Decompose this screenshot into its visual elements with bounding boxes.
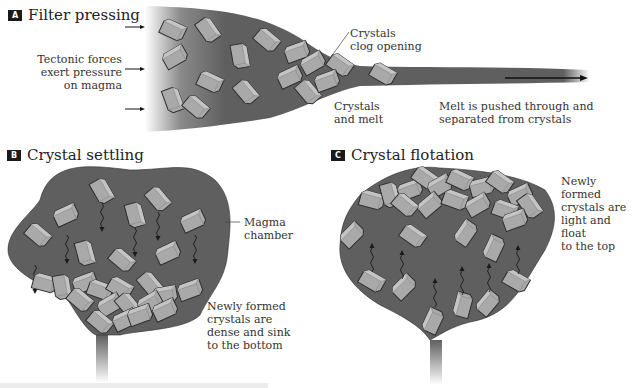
chamber-line-1: Magma — [244, 216, 293, 229]
sink-line-2: crystals are — [207, 313, 290, 326]
panel-c-badge: C — [331, 150, 345, 161]
light-float-label: Newly formed crystals are light and floa… — [561, 175, 635, 253]
float-line-3: light and float — [561, 214, 635, 240]
panel-a-heading: A Filter pressing — [8, 6, 140, 24]
panel-b-heading: B Crystal settling — [7, 146, 144, 164]
crystals-clog-label: Crystals clog opening — [350, 27, 422, 53]
dense-sink-label: Newly formed crystals are dense and sink… — [207, 300, 290, 352]
sink-line-3: dense and sink — [207, 326, 290, 339]
melt-pushed-label: Melt is pushed through and separated fro… — [439, 100, 594, 126]
sink-line-1: Newly formed — [207, 300, 290, 313]
float-line-4: to the top — [561, 240, 635, 253]
panel-c-heading: C Crystal flotation — [331, 146, 474, 164]
chamber-line-2: chamber — [244, 229, 293, 242]
panel-a-badge: A — [8, 10, 22, 21]
panel-b-badge: B — [7, 150, 21, 161]
tectonic-line-3: on magma — [30, 79, 122, 92]
crystals-melt-line-1: Crystals — [334, 100, 383, 113]
float-line-1: Newly formed — [561, 175, 635, 201]
melt-pushed-line-2: separated from crystals — [439, 113, 594, 126]
sink-line-4: to the bottom — [207, 339, 290, 352]
melt-pushed-line-1: Melt is pushed through and — [439, 100, 594, 113]
crystals-melt-line-2: and melt — [334, 113, 383, 126]
tectonic-forces-label: Tectonic forces exert pressure on magma — [30, 53, 122, 92]
tectonic-line-2: exert pressure — [30, 66, 122, 79]
panel-b-title: Crystal settling — [27, 146, 144, 164]
footer-band — [0, 383, 268, 388]
crystal-settling-chamber — [8, 167, 240, 383]
crystals-and-melt-label: Crystals and melt — [334, 100, 383, 126]
clog-line-1: Crystals — [350, 27, 422, 40]
float-line-2: crystals are — [561, 201, 635, 214]
panel-c-title: Crystal flotation — [351, 146, 474, 164]
clog-line-2: clog opening — [350, 40, 422, 53]
panel-a-title: Filter pressing — [28, 6, 140, 24]
magma-chamber-label: Magma chamber — [244, 216, 293, 242]
tectonic-line-1: Tectonic forces — [30, 53, 122, 66]
crystal-flotation-chamber — [338, 165, 555, 385]
